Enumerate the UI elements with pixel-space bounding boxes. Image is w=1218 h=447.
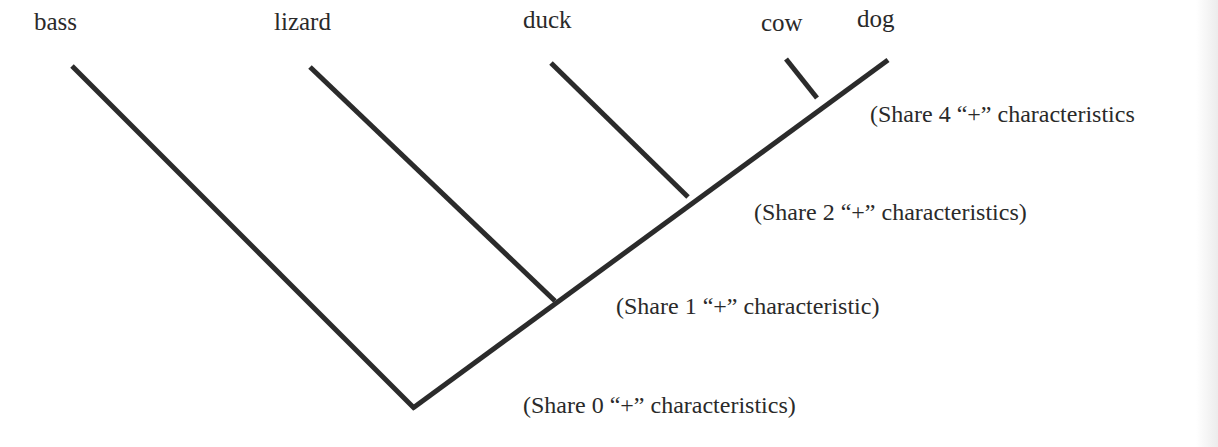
taxon-label-duck: duck	[523, 6, 572, 34]
taxon-label-lizard: lizard	[274, 8, 331, 36]
taxon-label-bass: bass	[34, 8, 77, 36]
branch-lizard	[310, 67, 555, 301]
annotation-share-0: (Share 0 “+” characteristics)	[523, 392, 796, 419]
branch-duck	[551, 63, 688, 197]
cladogram: bass lizard duck cow dog (Share 4 “+” ch…	[0, 0, 1218, 447]
annotation-share-4: (Share 4 “+” characteristics	[870, 101, 1135, 128]
branch-cow	[786, 59, 817, 98]
page-edge-shadow	[1196, 0, 1218, 447]
taxon-label-dog: dog	[857, 5, 895, 33]
taxon-label-cow: cow	[761, 9, 803, 37]
cladogram-lines	[0, 0, 1218, 447]
annotation-share-2: (Share 2 “+” characteristics)	[754, 199, 1027, 226]
annotation-share-1: (Share 1 “+” characteristic)	[616, 293, 879, 320]
